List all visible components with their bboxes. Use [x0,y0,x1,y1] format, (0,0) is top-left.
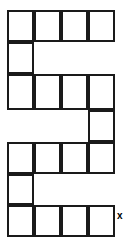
grid-cell [7,174,34,205]
grid-cell [34,74,61,110]
grid-cell [34,205,61,237]
grid-cell [7,42,34,74]
figure-label-x: x [117,211,123,221]
grid-cell [7,10,34,42]
grid-cell [61,205,88,237]
grid-cell [88,110,115,142]
grid-cell [7,74,34,110]
grid-cell [34,142,61,174]
grid-cell [88,205,115,237]
grid-cell [7,205,34,237]
grid-cell [34,10,61,42]
grid-cell [88,142,115,174]
grid-cell [88,10,115,42]
grid-cell [88,74,115,110]
grid-cell [7,142,34,174]
grid-cell [61,142,88,174]
grid-cell [61,10,88,42]
polyomino-figure: x [0,0,128,246]
grid-cell [61,74,88,110]
